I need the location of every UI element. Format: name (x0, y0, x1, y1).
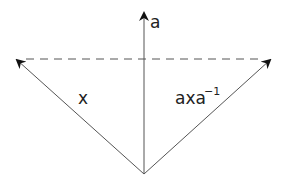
label-x: x (78, 88, 88, 108)
vector-x-arrow (17, 60, 144, 174)
conjugation-diagram: a x axa −1 (0, 0, 283, 181)
vector-axa-inverse-arrow (144, 60, 270, 174)
label-axa: axa (175, 88, 206, 108)
label-a: a (150, 12, 160, 32)
label-axa-superscript: −1 (204, 85, 220, 98)
